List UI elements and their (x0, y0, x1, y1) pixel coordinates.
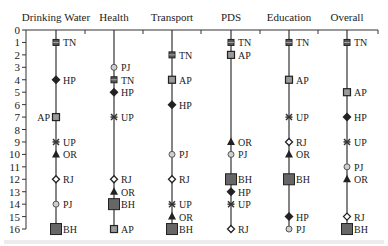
point-label: HP (296, 212, 309, 223)
column-overall: TNAPHPUPPJORRJBH (342, 30, 369, 235)
y-tick-label: 6 (15, 99, 21, 111)
column-transport: TNAPHPPJRJUPORBH (167, 30, 194, 235)
data-point-bh: BH (167, 224, 193, 236)
point-label: UP (296, 112, 309, 123)
point-label: HP (354, 112, 367, 123)
point-label: PJ (354, 162, 364, 173)
point-label: AP (121, 224, 134, 235)
column-pds: TNAPORPJBHHPUPRJ (226, 30, 253, 235)
point-label: TN (179, 50, 192, 61)
point-label: OR (354, 174, 368, 185)
data-point-ap: AP (111, 224, 135, 235)
point-label: RJ (354, 212, 365, 223)
y-tick-label: 3 (15, 61, 21, 73)
point-label: RJ (121, 174, 132, 185)
data-point-hp: HP (343, 112, 368, 123)
point-label: PJ (63, 199, 73, 210)
y-tick-label: 15 (9, 211, 21, 223)
column-title: PDS (221, 11, 241, 23)
point-label: TN (296, 37, 309, 48)
point-label: OR (63, 149, 77, 160)
point-label: UP (179, 199, 192, 210)
data-point-hp: HP (285, 212, 310, 223)
data-point-rj: RJ (228, 224, 249, 235)
point-label: TN (238, 37, 251, 48)
point-label: UP (238, 199, 251, 210)
point-label: RJ (179, 174, 190, 185)
y-tick-label: 16 (9, 223, 21, 235)
point-label: PJ (238, 149, 248, 160)
data-point-hp: HP (52, 75, 77, 86)
point-label: AP (296, 75, 309, 86)
point-label: HP (121, 87, 134, 98)
data-point-pj: PJ (286, 224, 306, 235)
rank-chart: Drinking WaterHealthTransportPDSEducatio… (0, 0, 388, 246)
column-title: Transport (151, 11, 193, 23)
point-label: HP (238, 187, 251, 198)
column-titles: Drinking WaterHealthTransportPDSEducatio… (22, 11, 364, 23)
column-title: Education (267, 11, 312, 23)
point-label: AP (238, 50, 251, 61)
data-point-hp: HP (110, 87, 135, 98)
point-label: UP (354, 137, 367, 148)
point-label: HP (179, 100, 192, 111)
y-axis: 012345678910111213141516 (9, 24, 26, 235)
caption-bleed (4, 240, 384, 244)
point-label: PJ (179, 149, 189, 160)
sector-columns: TNHPAPUPORRJPJBHPJTNHPUPRJORBHAPTNAPHPPJ… (37, 30, 368, 235)
point-label: OR (179, 212, 193, 223)
y-tick-label: 10 (9, 148, 21, 160)
y-tick-label: 1 (15, 36, 21, 48)
point-label: PJ (121, 62, 131, 73)
y-tick-label: 2 (15, 49, 21, 61)
column-health: PJTNHPUPRJORBHAP (109, 30, 136, 235)
column-title: Health (99, 11, 129, 23)
data-point-hp: HP (227, 187, 252, 198)
point-label: PJ (296, 224, 306, 235)
data-point-hp: HP (168, 100, 193, 111)
point-label: BH (296, 174, 310, 185)
point-label: TN (121, 75, 134, 86)
point-label: BH (354, 224, 368, 235)
y-tick-label: 12 (9, 173, 20, 185)
point-label: BH (238, 174, 252, 185)
y-tick-label: 13 (9, 186, 21, 198)
y-tick-label: 8 (15, 124, 21, 136)
data-point-bh: BH (284, 174, 310, 186)
data-point-bh: BH (51, 224, 77, 236)
point-label: UP (121, 112, 134, 123)
point-label: TN (63, 37, 76, 48)
column-title: Overall (331, 11, 364, 23)
point-label: HP (63, 75, 76, 86)
y-tick-label: 14 (9, 198, 21, 210)
y-tick-label: 4 (15, 74, 21, 86)
point-label: BH (63, 224, 77, 235)
point-label: TN (354, 37, 367, 48)
point-label: RJ (63, 174, 74, 185)
y-tick-label: 7 (15, 111, 21, 123)
y-tick-label: 9 (15, 136, 21, 148)
column-education: TNAPUPRJORBHHPPJ (284, 30, 311, 235)
point-label: AP (179, 75, 192, 86)
point-label: UP (63, 137, 76, 148)
data-point-bh: BH (342, 224, 368, 236)
top-axis (26, 30, 378, 34)
point-label: BH (121, 199, 135, 210)
y-tick-label: 5 (15, 86, 21, 98)
y-tick-label: 0 (15, 24, 21, 36)
point-label: OR (296, 149, 310, 160)
point-label: AP (37, 112, 50, 123)
point-label: OR (238, 137, 252, 148)
y-tick-label: 11 (9, 161, 20, 173)
data-point-bh: BH (109, 199, 135, 211)
point-label: AP (354, 87, 367, 98)
point-label: RJ (238, 224, 249, 235)
point-label: RJ (296, 137, 307, 148)
column-title: Drinking Water (22, 11, 91, 23)
point-label: OR (121, 187, 135, 198)
point-label: BH (179, 224, 193, 235)
data-point-bh: BH (226, 174, 252, 186)
column-drinking-water: TNHPAPUPORRJPJBH (37, 30, 77, 235)
